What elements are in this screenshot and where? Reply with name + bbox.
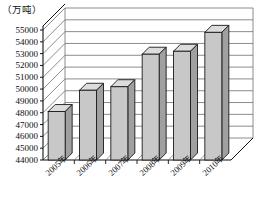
x-axis-tick-label: 2006年 <box>75 153 100 177</box>
x-axis-tick-label: 2005年 <box>44 153 69 177</box>
x-axis-tick-labels: 2005年2006年2007年2008年2009年2010年 <box>0 0 266 206</box>
bar-chart-figure: （万吨） 44000450004600047000480004900050000… <box>0 0 266 206</box>
x-axis-tick-label: 2007年 <box>107 153 132 177</box>
x-axis-tick-label: 2009年 <box>169 153 194 177</box>
x-axis-tick-label: 2008年 <box>138 153 163 177</box>
x-axis-tick-label: 2010年 <box>201 153 226 177</box>
